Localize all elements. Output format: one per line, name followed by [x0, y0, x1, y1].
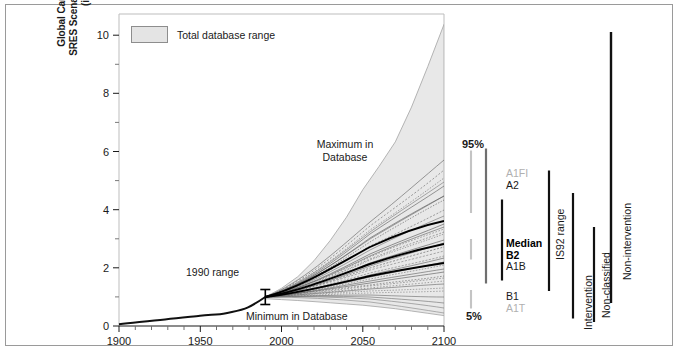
scenario-label-a1fi: A1FI: [506, 168, 528, 180]
y-axis: 0 2 4 6 8 10: [97, 29, 119, 332]
figure-root: Global Carbon Dioxide Emissions SRES Sce…: [0, 0, 678, 356]
range-label-non-intervention: Non-intervention: [621, 203, 633, 280]
legend-swatch-database-range: [131, 26, 168, 43]
annotation-maximum-in-database: Maximum in Database: [310, 138, 380, 163]
y-tick-10: 10: [97, 29, 109, 41]
range-label-intervention: Intervention: [582, 275, 594, 330]
label-5-percentile: 5%: [466, 310, 482, 322]
annotation-1990-range: 1990 range: [186, 266, 239, 279]
scenario-label-a1b: A1B: [506, 261, 526, 273]
x-tick-1900: 1900: [107, 335, 131, 347]
x-tick-2100: 2100: [432, 335, 456, 347]
y-tick-4: 4: [103, 204, 109, 216]
x-tick-2000: 2000: [269, 335, 293, 347]
y-tick-6: 6: [103, 146, 109, 158]
range-label-is92: IS92 range: [554, 209, 566, 260]
chart-canvas: 0 2 4 6 8 10: [0, 0, 678, 356]
range-label-non-classified: Non-classified: [600, 252, 612, 318]
annotation-maximum-line2: Database: [310, 151, 380, 164]
x-tick-2050: 2050: [351, 335, 375, 347]
x-tick-1950: 1950: [188, 335, 212, 347]
label-95-percentile: 95%: [462, 138, 484, 150]
annotation-maximum-line1: Maximum in: [310, 138, 380, 151]
historical-emissions-curve: [119, 297, 265, 324]
y-tick-2: 2: [103, 262, 109, 274]
y-tick-8: 8: [103, 87, 109, 99]
y-tick-0: 0: [103, 320, 109, 332]
scenario-label-a1t: A1T: [506, 303, 525, 315]
scenario-label-median: Median: [506, 238, 542, 250]
scenario-label-b1: B1: [506, 291, 519, 303]
x-axis: 1900 1950 2000 2050 2100: [107, 326, 456, 347]
legend-label-database-range: Total database range: [177, 29, 275, 41]
scenario-label-a2: A2: [506, 180, 519, 192]
annotation-minimum-in-database: Minimum in Database: [246, 310, 348, 323]
legend: Total database range: [131, 26, 275, 43]
